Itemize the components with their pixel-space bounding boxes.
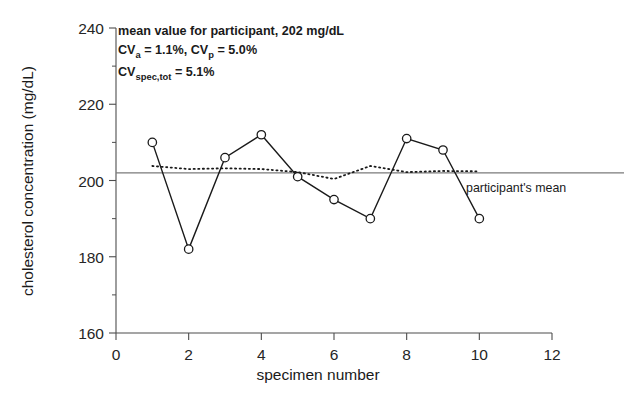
x-tick-label: 8 <box>402 346 411 363</box>
cv-total-note: CVspec,tot = 5.1% <box>118 65 344 82</box>
data-point-marker <box>184 245 192 253</box>
x-tick-label: 2 <box>184 346 193 363</box>
x-tick-label: 10 <box>471 346 489 363</box>
data-point-marker <box>148 138 156 146</box>
data-point-marker <box>293 172 301 180</box>
data-point-marker <box>366 214 374 222</box>
reference-line-label: participant's mean <box>466 181 566 195</box>
y-tick-label: 160 <box>78 325 104 342</box>
solid-data-line <box>152 135 479 249</box>
data-series-group <box>152 135 479 249</box>
x-tick-label: 12 <box>543 346 560 363</box>
x-tick-label: 6 <box>330 346 339 363</box>
y-axis-title: cholesterol concentration (mg/dL) <box>19 31 37 331</box>
y-tick-label: 220 <box>78 96 104 113</box>
x-tick-label: 4 <box>257 346 266 363</box>
x-tick-label: 0 <box>112 346 121 363</box>
statistics-annotation: mean value for participant, 202 mg/dL CV… <box>118 24 344 81</box>
y-tick-label: 240 <box>78 20 104 37</box>
cv-tot-subscript: spec,tot <box>136 70 172 81</box>
y-tick-label: 200 <box>78 173 104 190</box>
data-point-marker <box>221 153 229 161</box>
data-point-marker <box>439 146 447 154</box>
cv-tot-value: = 5.1% <box>171 65 214 79</box>
data-point-marker <box>257 131 265 139</box>
data-point-marker <box>402 134 410 142</box>
data-point-marker <box>475 214 483 222</box>
cv-analytical-precision-note: CVa = 1.1%, CVp = 5.0% <box>118 43 344 60</box>
x-axis-title: specimen number <box>0 366 636 384</box>
y-tick-label: 180 <box>78 249 104 266</box>
cv-tot-prefix: CV <box>118 65 136 79</box>
data-markers-group <box>148 131 483 254</box>
cv-p-value: = 5.0% <box>214 43 257 57</box>
chart-container: 160180200220240024681012 mean value for … <box>0 0 636 408</box>
mean-value-note: mean value for participant, 202 mg/dL <box>118 24 344 38</box>
cv-a-value: = 1.1%, CV <box>141 43 209 57</box>
cv-a-prefix: CV <box>118 43 136 57</box>
data-point-marker <box>330 195 338 203</box>
